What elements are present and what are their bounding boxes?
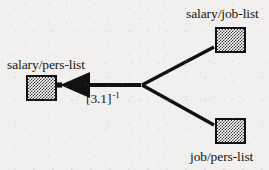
edge-label-join-cost: [3.1]-1 — [86, 92, 120, 106]
node-box-job-pers-list[interactable] — [215, 118, 246, 144]
edge-label-base: [3.1] — [86, 91, 111, 106]
diagram-canvas: salary/pers-list salary/job-list job/per… — [0, 0, 269, 170]
node-box-salary-pers-list[interactable] — [26, 75, 57, 101]
node-box-salary-job-list[interactable] — [215, 27, 246, 53]
node-label-salary-pers-list: salary/pers-list — [7, 58, 85, 72]
node-label-salary-job-list: salary/job-list — [186, 7, 259, 21]
input-edge-upper — [142, 47, 214, 85]
input-edge-lower — [142, 85, 214, 125]
node-label-job-pers-list: job/pers-list — [190, 150, 253, 164]
edge-label-exponent: -1 — [112, 90, 119, 100]
